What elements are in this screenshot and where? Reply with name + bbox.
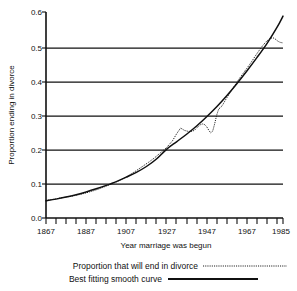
series-proportion-ending-in-divorce bbox=[46, 38, 283, 201]
y-axis-title-group: Proportion ending in divorce bbox=[7, 65, 16, 165]
gridlines bbox=[46, 48, 283, 184]
y-tick-label-0.4: 0.4 bbox=[31, 78, 43, 87]
legend: Proportion that will end in divorce Best… bbox=[69, 261, 287, 284]
chart-figure: Proportion ending in divorce 0.6 0.5 0.4… bbox=[0, 0, 297, 291]
x-tick-labels: 1867 1887 1907 1927 1947 1967 1985 bbox=[37, 227, 290, 236]
divorce-proportion-line-chart: Proportion ending in divorce 0.6 0.5 0.4… bbox=[0, 0, 297, 291]
x-tick-label-1985: 1985 bbox=[272, 227, 290, 236]
series-group bbox=[46, 16, 283, 201]
y-tick-labels: 0.6 0.5 0.4 0.3 0.2 0.1 0.0 bbox=[31, 8, 43, 223]
x-axis-minor-ticks bbox=[46, 218, 283, 224]
legend-label-smooth: Best fitting smooth curve bbox=[69, 274, 162, 284]
y-tick-label-0.0: 0.0 bbox=[31, 214, 43, 223]
legend-label-actual: Proportion that will end in divorce bbox=[73, 261, 198, 271]
x-tick-label-1867: 1867 bbox=[37, 227, 55, 236]
x-tick-label-1887: 1887 bbox=[77, 227, 95, 236]
x-tick-label-1967: 1967 bbox=[238, 227, 256, 236]
y-tick-label-0.5: 0.5 bbox=[31, 44, 43, 53]
series-best-fitting-smooth-curve bbox=[46, 16, 283, 201]
x-tick-label-1907: 1907 bbox=[117, 227, 135, 236]
y-tick-label-0.1: 0.1 bbox=[31, 180, 43, 189]
x-tick-label-1927: 1927 bbox=[158, 227, 176, 236]
x-axis-title: Year marriage was begun bbox=[121, 241, 212, 250]
y-tick-label-0.2: 0.2 bbox=[31, 146, 43, 155]
y-tick-label-0.3: 0.3 bbox=[31, 112, 43, 121]
x-tick-label-1947: 1947 bbox=[198, 227, 216, 236]
y-tick-label-0.6: 0.6 bbox=[31, 8, 43, 17]
y-axis-title: Proportion ending in divorce bbox=[7, 65, 16, 165]
